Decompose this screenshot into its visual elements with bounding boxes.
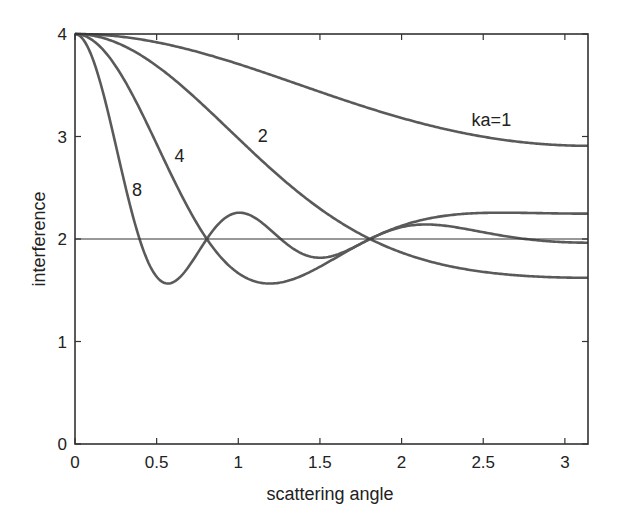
curves-group: [75, 34, 588, 284]
curve-ka-8: [75, 34, 588, 284]
x-tick-label: 3: [560, 453, 569, 472]
curve-label: ka=1: [472, 110, 512, 130]
x-tick-label: 1.5: [308, 453, 332, 472]
curve-label: 2: [258, 126, 268, 146]
interference-chart: 00.511.522.53 01234 ka=1248 scattering a…: [0, 0, 621, 527]
y-tick-label: 2: [58, 230, 67, 249]
y-tick-label: 1: [58, 333, 67, 352]
y-tick-label: 4: [58, 25, 67, 44]
x-tick-label: 2: [397, 453, 406, 472]
y-tick-label: 3: [58, 128, 67, 147]
x-axis-label: scattering angle: [266, 484, 393, 504]
curve-label: 8: [132, 180, 142, 200]
x-tick-label: 2.5: [471, 453, 495, 472]
curve-labels: ka=1248: [132, 110, 511, 200]
x-tick-label: 0: [70, 453, 79, 472]
curve-ka-2: [75, 34, 588, 278]
y-axis-label: interference: [29, 191, 49, 286]
y-tick-label: 0: [58, 435, 67, 454]
x-tick-label: 0.5: [145, 453, 169, 472]
curve-ka-4: [75, 34, 588, 284]
curve-label: 4: [174, 146, 184, 166]
x-tick-label: 1: [234, 453, 243, 472]
